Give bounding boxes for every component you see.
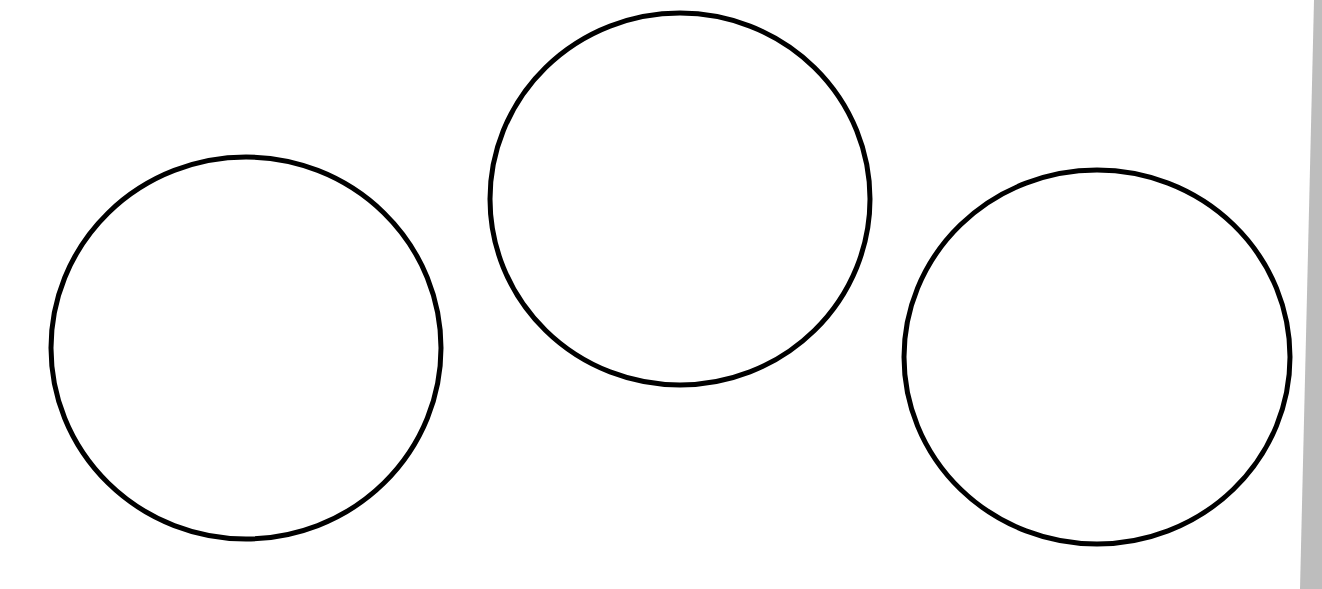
shapes-layer: [0, 0, 1322, 589]
page-edge-shadow: [1300, 0, 1322, 589]
center-circle: [490, 13, 870, 385]
left-circle: [51, 157, 441, 539]
right-circle: [904, 170, 1290, 544]
drawing-canvas: [0, 0, 1322, 589]
